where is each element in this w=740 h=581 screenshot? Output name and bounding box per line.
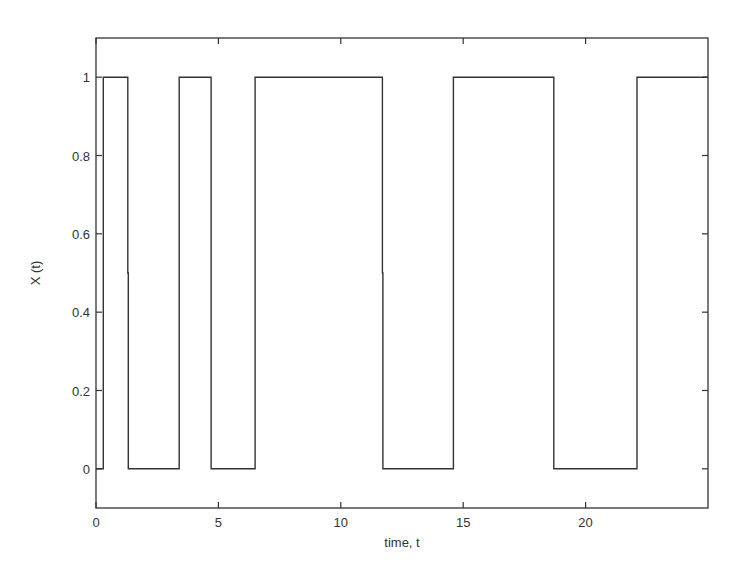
y-tick-label: 0 bbox=[83, 462, 90, 477]
y-axis-label: X (t) bbox=[28, 261, 43, 286]
chart-canvas: 05101520 00.20.40.60.81 time, t X (t) bbox=[0, 0, 740, 581]
y-tick-label: 0.8 bbox=[72, 149, 90, 164]
y-tick-label: 1 bbox=[83, 70, 90, 85]
x-tick-label: 0 bbox=[92, 515, 99, 530]
axes-frame bbox=[96, 38, 708, 508]
x-axis-label: time, t bbox=[384, 535, 420, 550]
y-tick-label: 0.2 bbox=[72, 384, 90, 399]
y-tick-label: 0.6 bbox=[72, 227, 90, 242]
x-tick-label: 10 bbox=[334, 515, 348, 530]
x-tick-label: 20 bbox=[578, 515, 592, 530]
x-tick-label: 15 bbox=[456, 515, 470, 530]
plot-area: 05101520 00.20.40.60.81 bbox=[72, 38, 708, 530]
x-tick-label: 5 bbox=[215, 515, 222, 530]
y-tick-label: 0.4 bbox=[72, 305, 90, 320]
